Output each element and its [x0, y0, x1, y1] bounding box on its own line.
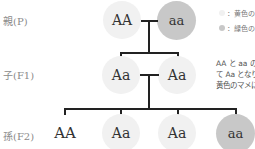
genotype-label: Aa: [112, 125, 130, 141]
genotype-label: Aa: [112, 67, 130, 83]
genotype-label: AA: [54, 124, 76, 142]
f2-node-AA: AA: [46, 114, 84, 149]
green-dot-icon: [219, 25, 225, 31]
legend-yellow-text: ：黄色の: [227, 8, 255, 18]
f2-node-aa: aa: [216, 114, 255, 149]
f1-node-Aa-right: Aa: [158, 56, 196, 94]
parent-node-aa: aa: [157, 1, 196, 40]
generation-label-parent: 親(P): [3, 13, 28, 28]
generation-label-f1: 子(F1): [3, 67, 34, 82]
note-line-2: て Aa となり: [216, 69, 255, 80]
f1-descent-line: [148, 74, 150, 110]
f1-node-Aa-left: Aa: [102, 56, 140, 94]
legend-yellow: ：黄色の: [219, 8, 255, 18]
genotype-label: aa: [228, 126, 244, 141]
parent-node-AA: AA: [103, 1, 141, 39]
parent-descent-line: [148, 20, 150, 54]
genotype-label: aa: [169, 13, 185, 28]
note-line-1: AA と aa の: [216, 58, 255, 69]
legend-green-text: ：緑色の: [227, 23, 255, 33]
f2-node-Aa-2: Aa: [158, 114, 196, 149]
explanation-note: AA と aa の て Aa となり 黄色のマメに: [216, 58, 255, 91]
generation-label-f2: 孫(F2): [3, 128, 34, 143]
genotype-label: Aa: [168, 125, 186, 141]
f2-node-Aa-1: Aa: [102, 114, 140, 149]
note-line-3: 黄色のマメに: [216, 80, 255, 91]
genotype-label: AA: [112, 12, 132, 28]
legend-green: ：緑色の: [219, 23, 255, 33]
genotype-label: Aa: [168, 67, 186, 83]
f1-branch-line: [120, 52, 179, 54]
yellow-dot-icon: [219, 10, 225, 16]
f2-branch-line: [64, 108, 237, 110]
